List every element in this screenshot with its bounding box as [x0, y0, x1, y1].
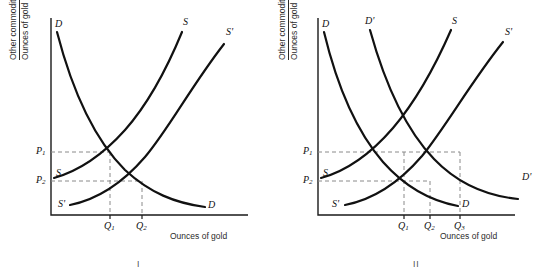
panel-number-one: I	[137, 259, 140, 269]
supply-demand-figure: D S S' S S' D P1 P2 Q1 Q2	[0, 0, 546, 280]
quantity-label-q2: Q2	[136, 221, 147, 232]
panel-one: D S S' S S' D P1 P2 Q1 Q2	[0, 0, 273, 280]
curve-supply	[54, 32, 182, 178]
curve-label-d-top: D	[322, 19, 329, 29]
curve-demand-shifted	[370, 30, 518, 199]
curve-label-s-axis: S	[56, 168, 61, 178]
quantity-label-q2: Q2	[424, 221, 435, 232]
curve-label-s-prime-top: S'	[505, 27, 512, 37]
curve-label-d-end: D	[462, 199, 469, 209]
curve-label-d-prime-end: D'	[522, 172, 531, 182]
curve-label-s-axis: S	[323, 168, 328, 178]
curve-label-s-prime-axis: S'	[332, 199, 339, 209]
quantity-label-q1: Q1	[104, 221, 115, 232]
curve-label-s-prime-top: S'	[226, 27, 233, 37]
curve-label-d-top: D	[55, 19, 62, 29]
curve-label-s-top: S	[452, 16, 457, 26]
price-label-p1: P1	[36, 146, 46, 157]
quantity-label-q1: Q1	[398, 221, 409, 232]
x-axis-title: Ounces of gold	[170, 231, 227, 241]
curve-label-d-end: D	[208, 200, 215, 210]
panel-two-axes	[318, 18, 515, 215]
panel-one-axes	[51, 18, 248, 215]
panel-number-two: II	[413, 259, 420, 269]
curve-label-s-top: S	[183, 17, 188, 27]
panel-one-plot	[0, 0, 273, 280]
price-label-p2: P2	[303, 175, 313, 186]
price-label-p2: P2	[36, 175, 46, 186]
curve-label-d-prime-top: D'	[365, 16, 374, 26]
panel-two-plot	[273, 0, 546, 280]
y-axis-title: Other commodities Ounces of gold	[277, 0, 299, 60]
x-axis-title: Ounces of gold	[440, 231, 497, 241]
panel-two: D D' S S' S S' D D' P1 P2 Q1	[273, 0, 546, 280]
curve-label-s-prime-axis: S'	[58, 199, 65, 209]
price-label-p1: P1	[303, 146, 313, 157]
y-axis-title: Other commodities Ounces of gold	[8, 0, 30, 60]
